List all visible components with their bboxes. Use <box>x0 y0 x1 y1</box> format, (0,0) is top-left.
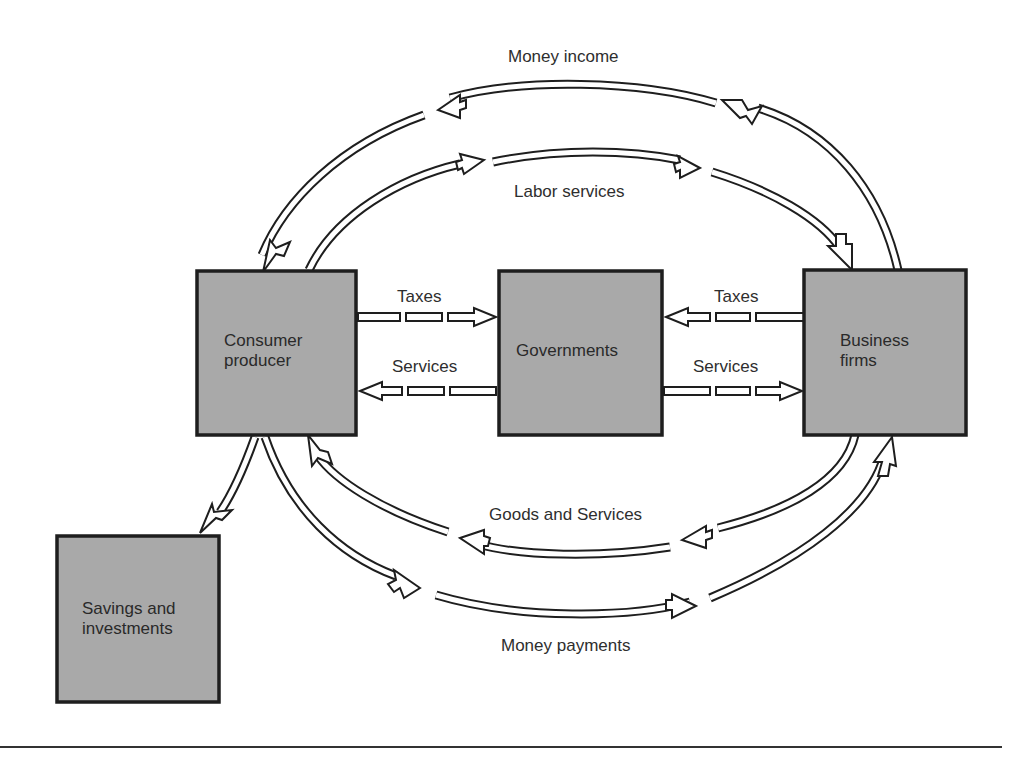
services-right-label: Services <box>693 357 758 377</box>
goods-and-services-label: Goods and Services <box>489 505 642 525</box>
savings-arrow <box>200 437 255 533</box>
bottom-rule <box>0 746 1002 748</box>
business-firms-label: Business firms <box>840 331 909 371</box>
money-income-arrow <box>262 84 898 272</box>
consumer-label-line2: producer <box>224 351 302 371</box>
money-payments-label: Money payments <box>501 636 630 656</box>
business-label-line1: Business <box>840 331 909 351</box>
labor-services-arrow <box>309 152 852 270</box>
savings-investments-label: Savings and investments <box>82 599 176 639</box>
business-label-line2: firms <box>840 351 909 371</box>
taxes-business-to-gov-arrow <box>666 308 804 326</box>
services-gov-to-business-arrow <box>664 382 802 400</box>
goods-and-services-arrow <box>308 435 855 554</box>
labor-services-label: Labor services <box>514 182 625 202</box>
services-left-label: Services <box>392 357 457 377</box>
taxes-consumer-to-gov-arrow <box>358 308 496 326</box>
savings-label-line2: investments <box>82 619 176 639</box>
consumer-label-line1: Consumer <box>224 331 302 351</box>
savings-label-line1: Savings and <box>82 599 176 619</box>
money-income-label: Money income <box>508 47 619 67</box>
consumer-producer-label: Consumer producer <box>224 331 302 371</box>
taxes-right-label: Taxes <box>714 287 758 307</box>
governments-label: Governments <box>516 341 618 361</box>
money-payments-arrow <box>265 437 896 618</box>
governments-label-line1: Governments <box>516 341 618 361</box>
taxes-left-label: Taxes <box>397 287 441 307</box>
services-gov-to-consumer-arrow <box>360 382 496 400</box>
